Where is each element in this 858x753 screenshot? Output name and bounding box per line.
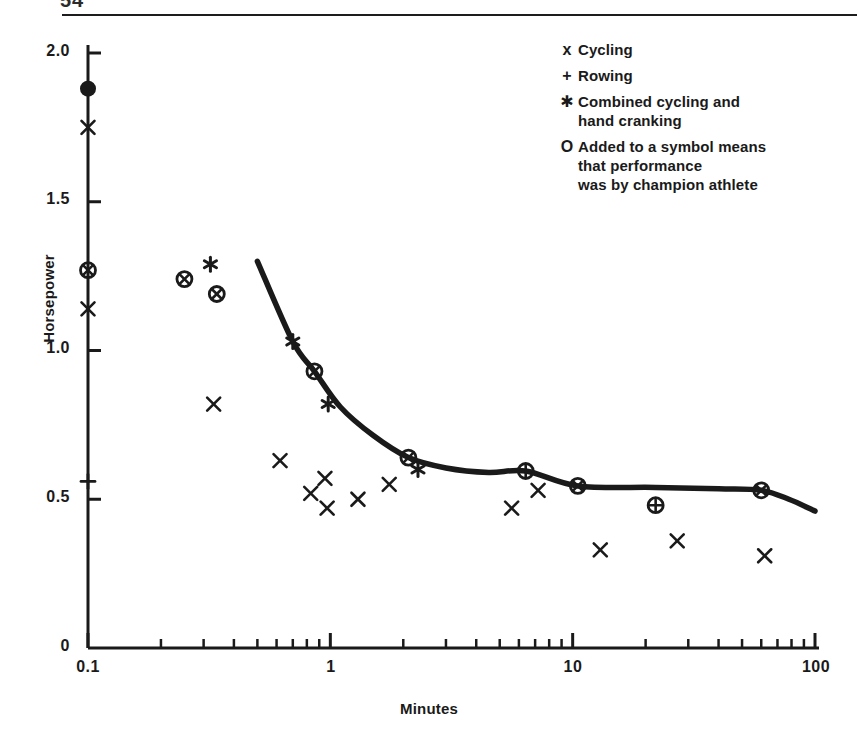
data-point bbox=[383, 478, 396, 491]
plus-icon: + bbox=[556, 66, 578, 85]
data-point bbox=[318, 472, 331, 485]
data-point bbox=[207, 398, 220, 411]
legend-entry-combined: ✱ Combined cycling and hand cranking bbox=[556, 92, 856, 130]
data-point bbox=[304, 487, 317, 500]
legend-entry-rowing: + Rowing bbox=[556, 66, 856, 85]
data-point bbox=[594, 543, 607, 556]
data-point bbox=[209, 286, 224, 301]
chart-legend: x Cycling + Rowing ✱ Combined cycling an… bbox=[556, 40, 856, 201]
data-point bbox=[321, 502, 334, 515]
cross-icon: x bbox=[556, 40, 578, 59]
legend-entry-cycling: x Cycling bbox=[556, 40, 856, 59]
series-5 bbox=[80, 81, 96, 97]
legend-label: Added to a symbol means that performance… bbox=[578, 137, 766, 194]
chart-figure: 54 Horsepower Minutes 2.0 1.5 1.0 0.5 0 … bbox=[0, 0, 858, 753]
data-point bbox=[758, 549, 771, 562]
series-1 bbox=[81, 474, 95, 488]
data-point bbox=[351, 493, 364, 506]
data-point bbox=[274, 454, 287, 467]
circle-icon: O bbox=[556, 137, 578, 156]
legend-entry-champion: O Added to a symbol means that performan… bbox=[556, 137, 856, 194]
data-point bbox=[505, 502, 518, 515]
legend-label: Cycling bbox=[578, 40, 633, 59]
data-point bbox=[80, 81, 96, 97]
data-point bbox=[518, 463, 533, 478]
data-point bbox=[307, 364, 322, 379]
asterisk-icon: ✱ bbox=[556, 92, 578, 111]
legend-label: Rowing bbox=[578, 66, 633, 85]
data-point bbox=[81, 474, 95, 488]
fitted-curve bbox=[257, 261, 815, 511]
legend-label: Combined cycling and hand cranking bbox=[578, 92, 740, 130]
data-point bbox=[177, 272, 192, 287]
data-point bbox=[648, 498, 663, 513]
data-point bbox=[532, 484, 545, 497]
data-point bbox=[204, 257, 216, 271]
data-point bbox=[671, 534, 684, 547]
